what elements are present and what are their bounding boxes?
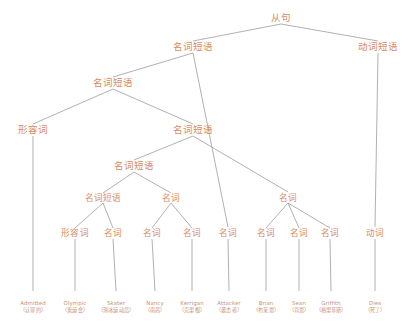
- tree-leaf-l0: Admitted（认罪的）: [20, 300, 46, 313]
- tree-leaf-l5: Attacker（袭击者）: [216, 300, 242, 313]
- leaf-gloss: （认罪的）: [20, 307, 46, 314]
- leaf-gloss: （克里根）: [179, 307, 205, 314]
- leaf-gloss: （肖恩）: [289, 307, 309, 314]
- tree-node-p2: 名词: [104, 229, 122, 238]
- tree-node-p9: 动词: [366, 229, 384, 238]
- tree-edge: [113, 239, 116, 291]
- syntax-tree-diagram: 从句名词短语动词短语名词短语形容词名词短语名词短语名词短语名词名词形容词名词名词…: [0, 0, 409, 329]
- leaf-word: Kerrigan: [179, 300, 205, 307]
- tree-edge: [288, 203, 299, 228]
- tree-edge: [193, 136, 288, 192]
- tree-edge: [103, 172, 134, 193]
- tree-node-p5: 名词: [219, 229, 237, 238]
- tree-node-p6: 名词: [257, 229, 275, 238]
- tree-leaf-l3: Nancy（南茜）: [145, 300, 165, 313]
- leaf-gloss: （滑冰运动员）: [98, 307, 134, 314]
- tree-edge: [266, 203, 288, 228]
- tree-leaf-l9: Dies（死了）: [365, 300, 385, 313]
- tree-node-p8: 名词: [321, 229, 339, 238]
- leaf-gloss: （南茜）: [145, 307, 165, 314]
- tree-edge: [281, 24, 378, 41]
- tree-node-p1: 形容词: [61, 229, 89, 238]
- leaf-gloss: （格里菲斯）: [316, 307, 347, 314]
- tree-edge: [113, 53, 193, 77]
- leaf-word: Admitted: [20, 300, 46, 307]
- tree-edge: [193, 24, 281, 41]
- tree-edge: [171, 203, 192, 228]
- leaf-word: Sean: [289, 300, 309, 307]
- tree-leaf-l7: Sean（肖恩）: [289, 300, 309, 313]
- leaf-gloss: （袭击者）: [216, 307, 242, 314]
- tree-node-n4: 形容词: [18, 125, 49, 135]
- tree-leaf-l8: Griffith（格里菲斯）: [316, 300, 347, 313]
- tree-edge: [75, 203, 103, 228]
- tree-edge: [152, 203, 171, 228]
- leaf-word: Olympic: [62, 300, 88, 307]
- tree-leaf-l2: Skater（滑冰运动员）: [98, 300, 134, 313]
- tree-node-p4: 名词: [183, 229, 201, 238]
- tree-node-n9: 名词: [279, 194, 297, 203]
- leaf-word: Skater: [98, 300, 134, 307]
- leaf-gloss: （布莱恩）: [253, 307, 279, 314]
- tree-node-p3: 名词: [143, 229, 161, 238]
- leaf-gloss: （死了）: [365, 307, 385, 314]
- tree-edge: [152, 239, 155, 291]
- tree-node-n2: 动词短语: [358, 42, 399, 52]
- tree-edge: [228, 239, 229, 291]
- tree-edge: [288, 203, 330, 228]
- tree-edge: [193, 53, 228, 227]
- leaf-word: Griffith: [316, 300, 347, 307]
- tree-node-n8: 名词: [162, 194, 180, 203]
- tree-node-n6: 名词短语: [114, 161, 155, 171]
- tree-edge: [103, 203, 113, 228]
- tree-edge: [134, 136, 193, 160]
- leaf-word: Attacker: [216, 300, 242, 307]
- leaf-word: Nancy: [145, 300, 165, 307]
- tree-node-n1: 名词短语: [173, 42, 214, 52]
- tree-node-n7: 名词短语: [85, 194, 122, 203]
- tree-edge: [33, 89, 113, 124]
- tree-leaf-l4: Kerrigan（克里根）: [179, 300, 205, 313]
- tree-leaf-l1: Olympic（奥运会）: [62, 300, 88, 313]
- tree-node-n3: 名词短语: [93, 78, 134, 88]
- tree-edge: [330, 239, 331, 291]
- leaf-word: Dies: [365, 300, 385, 307]
- tree-edge: [375, 53, 378, 227]
- tree-edge: [134, 172, 171, 193]
- tree-edge: [113, 89, 193, 124]
- leaf-word: Brian: [253, 300, 279, 307]
- tree-node-n0: 从句: [271, 13, 291, 23]
- tree-leaf-l6: Brian（布莱恩）: [253, 300, 279, 313]
- tree-node-n5: 名词短语: [173, 125, 214, 135]
- tree-node-p7: 名词: [290, 229, 308, 238]
- leaf-gloss: （奥运会）: [62, 307, 88, 314]
